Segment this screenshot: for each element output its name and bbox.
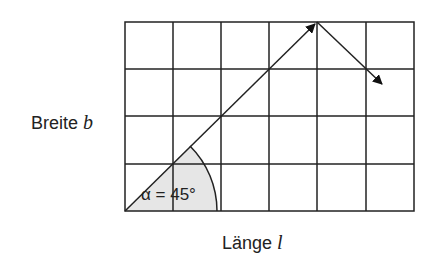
angle-label: α = 45° [141, 185, 196, 205]
x-axis-label-text: Länge [222, 233, 272, 253]
incident-arrow [125, 24, 315, 211]
x-axis-variable: l [277, 231, 283, 253]
y-axis-label: Breite b [31, 111, 93, 134]
x-axis-label: Länge l [222, 231, 283, 254]
y-axis-variable: b [83, 111, 93, 133]
reflected-arrow [317, 22, 382, 84]
y-axis-label-text: Breite [31, 113, 78, 133]
